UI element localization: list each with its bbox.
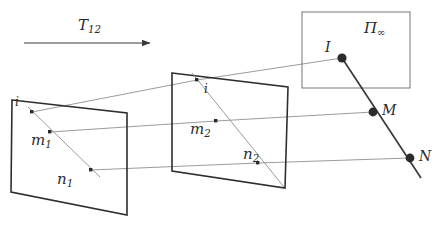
ray-i2-to-I — [197, 58, 342, 80]
dot-i2 — [195, 78, 198, 81]
point-label-m1-sub: 1 — [45, 139, 52, 150]
point-label-n2-base: n — [243, 145, 253, 163]
transformation-label-base: T — [78, 16, 88, 34]
plane-at-infinity-box — [302, 12, 410, 88]
plane-at-infinity-label-base: Π — [364, 19, 377, 37]
dot-m2 — [214, 119, 217, 122]
plane-at-infinity-label-sub: ∞ — [377, 27, 386, 38]
transformation-label: T12 — [78, 18, 101, 35]
point-label-M-text: M — [382, 102, 396, 118]
image-plane-1 — [11, 100, 127, 215]
ray-m2-to-M — [216, 112, 373, 121]
dot-I — [337, 53, 346, 62]
plane-at-infinity-label: Π∞ — [364, 21, 386, 38]
point-label-n1: n1 — [57, 172, 73, 189]
point-label-i-2: i — [204, 83, 208, 95]
transformation-label-sub: 12 — [88, 24, 101, 35]
point-label-m2-sub: 2 — [204, 128, 211, 139]
point-label-n1-base: n — [57, 170, 67, 188]
dot-i1 — [30, 110, 33, 113]
ray-n2-to-N — [258, 158, 410, 163]
point-label-n2-sub: 2 — [253, 153, 260, 164]
point-label-I-text: I — [325, 39, 331, 55]
figure-canvas: T12 i m1 n1 i m2 n2 Π∞ I M N — [0, 0, 444, 230]
point-label-M: M — [382, 103, 396, 117]
point-label-i-1-text: i — [15, 95, 19, 109]
point-label-i-2-text: i — [204, 82, 208, 96]
dot-M — [369, 108, 378, 117]
point-label-n2: n2 — [243, 147, 259, 164]
point-label-i-1: i — [15, 96, 19, 108]
point-label-n1-sub: 1 — [67, 178, 74, 189]
ray-n1-to-n2 — [91, 163, 258, 170]
point-label-m1: m1 — [31, 133, 52, 150]
point-label-m2-base: m — [190, 120, 204, 138]
point-label-m1-base: m — [31, 131, 45, 149]
point-label-m2: m2 — [190, 122, 211, 139]
point-label-N: N — [419, 149, 431, 163]
point-label-I: I — [325, 40, 331, 54]
dot-n1 — [89, 168, 92, 171]
dot-N — [406, 154, 415, 163]
point-label-N-text: N — [419, 148, 431, 164]
